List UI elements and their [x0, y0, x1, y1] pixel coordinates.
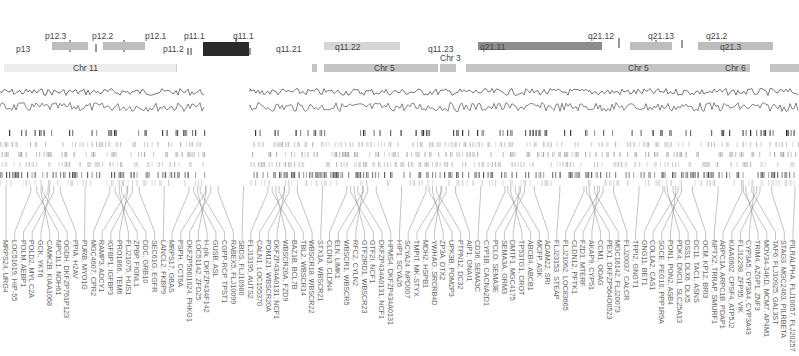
cytoband-label: q11.21: [276, 45, 301, 54]
chromosome-segment: [312, 64, 317, 72]
gene-label: TAF6, FLJ10925, GAL3ST: [772, 240, 779, 325]
gene-label: WBSCR20A, FZD9: [282, 240, 289, 302]
gene-label: H-plk, DKFZP434F142: [203, 240, 210, 313]
cytoband-label: p13: [16, 45, 30, 54]
chromosome-label: Chr 6: [725, 64, 746, 73]
gene-label: HPMS4, DKFZP434A0131: [387, 240, 394, 325]
cytoband-box: [203, 42, 249, 50]
chromosome-label: Chr 5: [628, 64, 649, 73]
gene-label: CLDN12, PFTK1: [570, 240, 577, 294]
gene-label: GUSB, ASL: [212, 240, 219, 278]
gene-label: MRPS24, URG4: [2, 240, 9, 293]
gene-label: OGDH, DKFZP761P123: [63, 240, 70, 318]
gene-label: BAZ1B, BCL7B: [291, 240, 298, 290]
gene-label: RABEX5, FLJ10099: [229, 240, 236, 304]
gene-label: FLJ20037, CALCR: [623, 240, 630, 300]
gene-label: SEC61G, EGFR: [151, 240, 158, 292]
gene-label: CGPP-RCP, TPST1: [221, 240, 228, 303]
gene-label: PURB, MYO1G: [81, 240, 88, 290]
chromosome-segment: [466, 64, 530, 72]
gene-label: MRPS17, GBAS: [168, 240, 175, 293]
chromosome-label: Chr 5: [374, 64, 395, 73]
cytoband-box: [630, 42, 672, 50]
gene-label: LANCL2, FKBP9: [159, 240, 166, 294]
gene-label: CAMK2B, KIAA1068: [46, 240, 53, 306]
gene-label: CYP1B, CACNA2D1: [483, 240, 490, 306]
gene-label: FLJ12298, ZFP95, VIK: [737, 240, 744, 313]
gene-label: SCYA24, NPD007: [404, 240, 411, 298]
gene-label: CLDN3, CLDN4: [326, 240, 333, 291]
gene-label: ARPC1A, ARPC1B, PDAP1: [719, 240, 726, 329]
gene-label: FLJ23153, STEAP: [553, 240, 560, 300]
gene-label: PILRALPHA, FLJ10057, FLJ20257: [789, 240, 796, 351]
gene-label: ZP3A, DTX2: [439, 240, 446, 280]
gene-label: HIP1, SCYA26: [396, 240, 403, 287]
gene-label: POLD2, MYL C2A: [28, 240, 35, 298]
gene-label: SEMA3A, GRM3: [500, 240, 507, 294]
cytoband-label: p11.2: [163, 45, 184, 54]
gene-label: AIP1, GNAI1: [465, 240, 472, 281]
gene-label: MOV34-34KD, MCM7, AP4M1: [763, 240, 770, 337]
gene-label: DMTF1, MGC4175: [509, 240, 516, 301]
gene-label: SBDS, FLJ10980: [238, 240, 245, 296]
gene-label: TBL2, WBSCR14: [299, 240, 306, 296]
cytoband-label: p12.1: [145, 32, 166, 41]
cytoband-label: q21.3: [720, 43, 741, 52]
cytoband-label: q21.11: [480, 43, 505, 52]
gene-label: MDH2, HSPB1: [422, 240, 429, 288]
gene-label: FLJ13195, AUTS2: [247, 240, 254, 299]
gene-label: ELN, LIMK1: [334, 240, 341, 279]
gene-label: CD36, SEMA3C: [474, 240, 481, 292]
gene-label: TMPIT, MK-STYX: [413, 240, 420, 297]
gene-label: YWHAG, SRCRB4D: [430, 240, 437, 306]
gene-label: SGCE, PEG10, PPP1R9A: [658, 240, 665, 324]
gene-label: DKFZP434A0131, NCF1: [378, 240, 385, 319]
gene-label: PPIA, H2AV: [72, 240, 79, 279]
gene-label: PON1, PON2, ASB4: [667, 240, 674, 305]
gene-label: DKFZP434A0131, NCF1: [273, 240, 280, 319]
gene-label: RAMP3, ADCY1: [98, 240, 105, 292]
gene-label: CALN1, LOC155370: [256, 240, 263, 306]
gene-label: WBSCR1, WBSCR5: [343, 240, 350, 306]
gene-label: NPC1L1, NOH61: [54, 240, 61, 295]
gene-label: PTPN12, DC32: [457, 240, 464, 290]
gene-label: GTF2IRD1, WBSCR23: [361, 240, 368, 314]
cytoband-label: q11.1: [233, 32, 254, 41]
genome-map-figure: p13p12.3p12.2p12.1p11.2p11.1q11.1q11.21q…: [0, 0, 799, 356]
gene-label: COL1A2, CAS1: [649, 240, 656, 290]
gene-label: DKFZP566I1024, PHKG1: [186, 240, 193, 322]
gene-label: TP53TG1, CROT: [518, 240, 525, 296]
gene-label: DSS1, DLX6, DLX5: [684, 240, 691, 303]
cytoband-label: q11.22: [335, 43, 360, 52]
gene-label: PEX1, DKFZP564O0523: [605, 240, 612, 320]
gene-label: GNG11, BET1: [640, 240, 647, 286]
gene-label: TFPI2, GNGT1: [632, 240, 639, 288]
chromosome-segment: [770, 64, 799, 72]
cytoband-label: q21.12: [588, 32, 614, 41]
gene-label: PRO1866, TEM6: [116, 240, 123, 295]
gene-label: LOC51619, HIP-55: [11, 240, 18, 301]
gene-label: FLJ21062, LOC83665: [562, 240, 569, 311]
gene-label: CYP3A5, CYP3A4, CYP3A43: [745, 240, 752, 335]
gene-label: PDK4, DNCI1, SLC25A13: [675, 240, 682, 323]
gene-label: PCLO, SEMA3E: [492, 240, 499, 293]
gene-label: MGC4607, CPR2: [89, 240, 96, 296]
gene-label: ZPBP, FIGNL1: [133, 240, 140, 287]
gene-label: PSPH, CCT6A: [177, 240, 184, 287]
gene-label: RFC2, CYLN2: [352, 240, 359, 286]
gene-label: WBSCR18, WBSCR22: [308, 240, 315, 314]
gene-label: POLM, AEBP1: [19, 240, 26, 287]
gene-label: GCK, YKT6: [37, 240, 44, 277]
gene-label: ADAM22, SRI: [544, 240, 551, 285]
gene-label: IGFBP1, IGFBP3: [107, 240, 114, 295]
gene-label: TRIM4, AZGP1, ZNF3: [754, 240, 761, 311]
cytoband-label: q21.2: [706, 32, 727, 41]
gene-label: MCFP, ASK: [535, 240, 542, 277]
gene-label: OCM, KP12, BRI3: [702, 240, 709, 298]
chromosome-label: Chr 11: [73, 64, 98, 73]
gene-label: STX1A, WBSCR21: [317, 240, 324, 302]
gene-label: AKAP9, CYP51: [588, 240, 595, 290]
cytoband-box: [52, 42, 88, 50]
gene-label: LOC51142, ZFD25: [194, 240, 201, 300]
cytoband-label: p12.2: [92, 32, 113, 41]
